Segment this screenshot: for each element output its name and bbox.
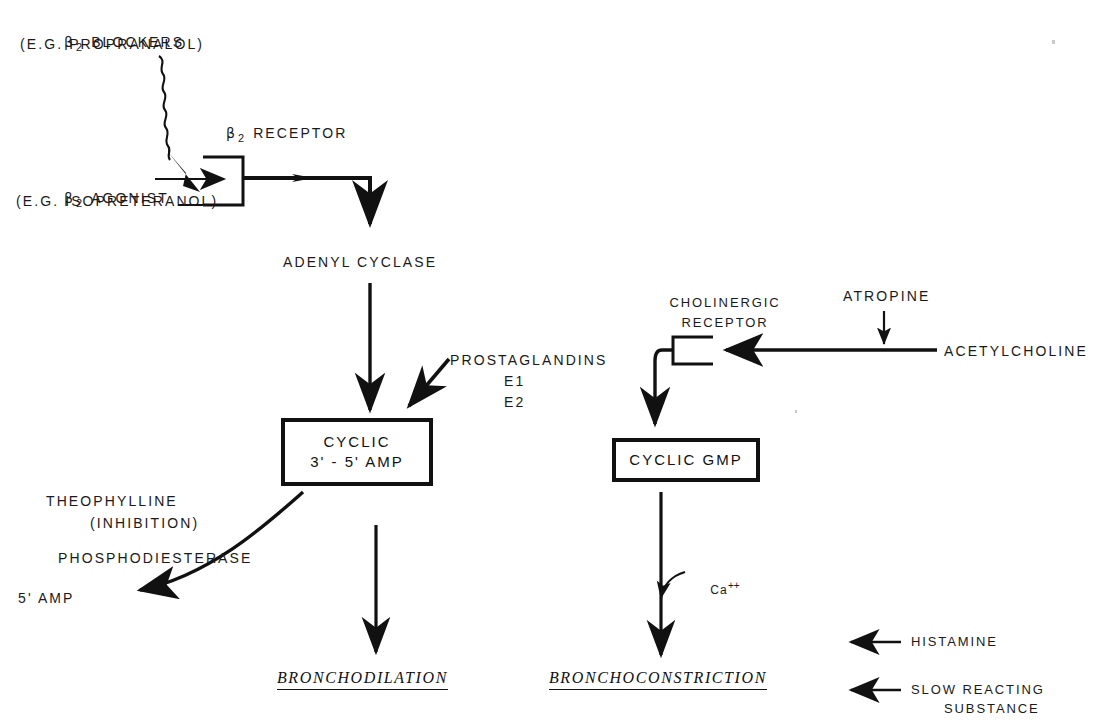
theophylline-label: THEOPHYLLINE xyxy=(46,491,178,511)
prostaglandins-arrow xyxy=(409,359,449,406)
prostaglandins-label: PROSTAGLANDINS xyxy=(450,350,608,370)
scan-speck-top-right xyxy=(1052,40,1055,44)
prostaglandin-e1-label: E1 xyxy=(504,371,525,391)
cyclic-gmp-box: CYCLIC GMP xyxy=(612,438,760,482)
receptor-to-adenyl-cyclase-path xyxy=(243,174,370,224)
cyclic-amp-box: CYCLIC 3' - 5' AMP xyxy=(281,418,433,486)
bronchodilation-outcome: BRONCHODILATION xyxy=(277,669,448,690)
cholinergic-receptor-bracket xyxy=(673,337,713,364)
propranalol-label: (E.G. PROPRANALOL) xyxy=(20,34,204,54)
scan-speck-center xyxy=(795,410,797,413)
beta2-receptor-subscript: 2 xyxy=(237,132,247,144)
histamine-label: HISTAMINE xyxy=(911,633,998,652)
srs-label-line1: SLOW REACTING xyxy=(911,681,1045,700)
srs-label-line2: SUBSTANCE xyxy=(944,700,1040,719)
phosphodiesterase-label: PHOSPHODIESTERASE xyxy=(58,548,252,568)
calcium-charge: ++ xyxy=(728,580,740,591)
prostaglandin-e2-label: E2 xyxy=(504,392,525,412)
cyclic-gmp-text: CYCLIC GMP xyxy=(629,450,742,470)
calcium-label: Ca++ xyxy=(692,562,740,617)
beta2-receptor-text: RECEPTOR xyxy=(247,125,347,141)
adenyl-cyclase-label: ADENYL CYCLASE xyxy=(283,252,437,272)
amp5-label: 5' AMP xyxy=(18,588,75,608)
diagram-canvas: β2 BLOCKERS (E.G. PROPRANALOL) β2 RECEPT… xyxy=(0,0,1103,722)
beta2-receptor-label: β2 RECEPTOR xyxy=(202,103,347,168)
atropine-label: ATROPINE xyxy=(843,286,930,306)
theophylline-inhibition-label: (INHIBITION) xyxy=(90,513,199,533)
calcium-symbol: Ca xyxy=(710,583,728,597)
bronchoconstriction-outcome: BRONCHOCONSTRICTION xyxy=(549,669,767,690)
receptor-to-cgmp-path xyxy=(655,350,673,424)
isopreteranol-label: (E.G. ISOPRETERANOL) xyxy=(16,191,218,211)
cyclic-amp-line2: 3' - 5' AMP xyxy=(310,452,404,472)
cholinergic-receptor-label-line2: RECEPTOR xyxy=(660,314,790,333)
cholinergic-receptor-label-line1: CHOLINERGIC xyxy=(660,294,790,313)
cyclic-amp-line1: CYCLIC xyxy=(323,432,390,452)
beta2-receptor-greek: β xyxy=(226,125,237,141)
calcium-curve-arrow xyxy=(661,572,685,598)
acetylcholine-label: ACETYLCHOLINE xyxy=(944,341,1088,361)
